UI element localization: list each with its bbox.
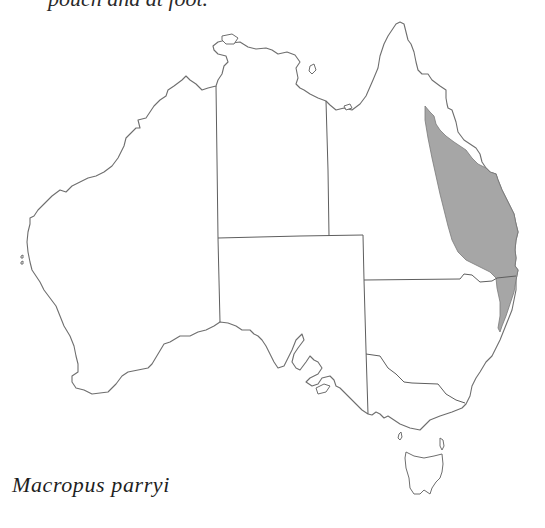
australia-map bbox=[0, 0, 545, 528]
island-kangaroo bbox=[316, 384, 330, 394]
species-name-label: Macropus parryi bbox=[12, 472, 170, 498]
island-melville bbox=[222, 34, 238, 44]
island-groote bbox=[309, 64, 316, 74]
mainland-coastline bbox=[27, 22, 518, 430]
island-west-coast bbox=[21, 255, 23, 258]
island-king bbox=[398, 432, 402, 440]
island-tasmania bbox=[405, 452, 443, 494]
island-mornington bbox=[344, 104, 352, 110]
island-west-coast-2 bbox=[21, 261, 23, 264]
island-flinders bbox=[440, 438, 444, 450]
